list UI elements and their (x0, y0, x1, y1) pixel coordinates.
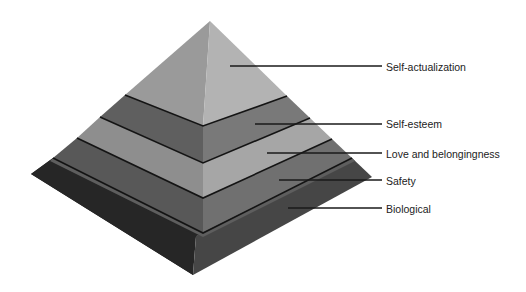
maslow-hierarchy-diagram: Self-actualization Self-esteem Love and … (0, 0, 526, 292)
pyramid-graphic (0, 0, 526, 292)
label-safety: Safety (386, 175, 416, 187)
label-love-and-belongingness: Love and belongingness (386, 148, 500, 160)
label-biological: Biological (386, 203, 431, 215)
label-self-actualization: Self-actualization (386, 61, 466, 73)
label-self-esteem: Self-esteem (386, 118, 442, 130)
